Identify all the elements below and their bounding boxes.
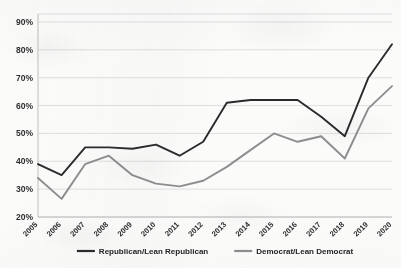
x-axis-tick-label: 2013 xyxy=(210,220,228,238)
x-axis-tick-label: 2014 xyxy=(233,220,252,239)
gridlines-group xyxy=(38,14,392,217)
series-line xyxy=(38,44,392,175)
legend-label: Democrat/Lean Democrat xyxy=(256,247,353,256)
series-line xyxy=(38,86,392,199)
x-axis-tick-label: 2006 xyxy=(45,220,63,238)
y-axis-tick-label: 30% xyxy=(16,184,33,194)
x-axis-tick-label: 2008 xyxy=(92,220,110,238)
chart-legend: Republican/Lean RepublicanDemocrat/Lean … xyxy=(77,247,354,256)
data-series-group xyxy=(38,44,392,199)
x-axis-tick-label: 2018 xyxy=(328,220,346,238)
x-axis-tick-label: 2015 xyxy=(257,220,276,239)
line-chart: 20%30%40%50%60%70%80%90% 200520062007200… xyxy=(0,0,401,268)
x-axis-tick-label: 2012 xyxy=(186,220,204,238)
legend-item[interactable]: Republican/Lean Republican xyxy=(77,247,208,256)
legend-label: Republican/Lean Republican xyxy=(99,247,208,256)
x-axis-tick-label: 2019 xyxy=(351,220,369,238)
x-axis-tick-label: 2020 xyxy=(375,220,393,238)
y-axis-tick-label: 50% xyxy=(16,128,33,138)
y-axis-tick-label: 60% xyxy=(16,101,33,111)
y-axis-tick-label: 40% xyxy=(16,156,33,166)
x-axis-tick-label: 2005 xyxy=(21,220,40,239)
x-axis-tick-label: 2016 xyxy=(281,220,299,238)
x-axis-tick-label: 2010 xyxy=(139,220,157,238)
y-axis-tick-label: 80% xyxy=(16,45,33,55)
chart-canvas: 20%30%40%50%60%70%80%90% 200520062007200… xyxy=(0,0,401,268)
x-axis-labels-group: 2005200620072008200920102011201220132014… xyxy=(21,220,393,239)
x-axis-tick-label: 2011 xyxy=(163,220,182,239)
y-axis-tick-label: 90% xyxy=(16,17,33,27)
y-axis-tick-label: 70% xyxy=(16,73,33,83)
x-axis-tick-label: 2017 xyxy=(304,220,322,238)
x-axis-tick-label: 2007 xyxy=(68,220,86,238)
legend-item[interactable]: Democrat/Lean Democrat xyxy=(234,247,353,256)
x-axis-tick-label: 2009 xyxy=(115,220,133,238)
y-axis-tick-label: 20% xyxy=(16,212,33,222)
y-axis-labels-group: 20%30%40%50%60%70%80%90% xyxy=(16,17,33,222)
